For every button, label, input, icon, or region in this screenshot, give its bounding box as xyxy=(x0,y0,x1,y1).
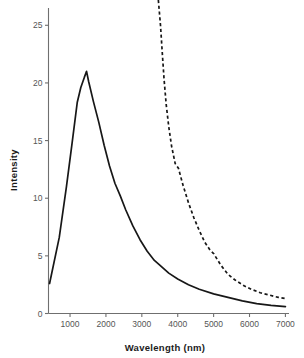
y-tick-label: 15 xyxy=(33,136,43,146)
y-tick-label: 20 xyxy=(33,78,43,88)
x-tick-label: 4000 xyxy=(168,319,187,329)
y-tick-label: 10 xyxy=(33,193,43,203)
x-axis-title: Wavelength (nm) xyxy=(125,342,206,353)
y-axis-ticks: 0510152025 xyxy=(33,20,48,318)
series-dashed-absorption-curve xyxy=(158,0,285,299)
x-tick-label: 5000 xyxy=(204,319,223,329)
y-tick-label: 0 xyxy=(38,309,43,319)
x-tick-label: 2000 xyxy=(96,319,115,329)
x-tick-label: 6000 xyxy=(240,319,259,329)
x-tick-label: 3000 xyxy=(132,319,151,329)
x-axis-ticks: 1000200030004000500060007000 xyxy=(61,314,296,329)
axes-group xyxy=(49,8,290,314)
series-solid-emission-curve xyxy=(50,71,286,306)
chart-figure: 0510152025 1000200030004000500060007000 … xyxy=(0,0,304,358)
y-axis-title: Intensity xyxy=(8,149,19,191)
x-tick-label: 7000 xyxy=(276,319,295,329)
y-tick-label: 5 xyxy=(38,251,43,261)
spectrum-line-chart: 0510152025 1000200030004000500060007000 … xyxy=(0,0,304,358)
series-group xyxy=(50,0,286,307)
x-tick-label: 1000 xyxy=(61,319,80,329)
y-tick-label: 25 xyxy=(33,20,43,30)
